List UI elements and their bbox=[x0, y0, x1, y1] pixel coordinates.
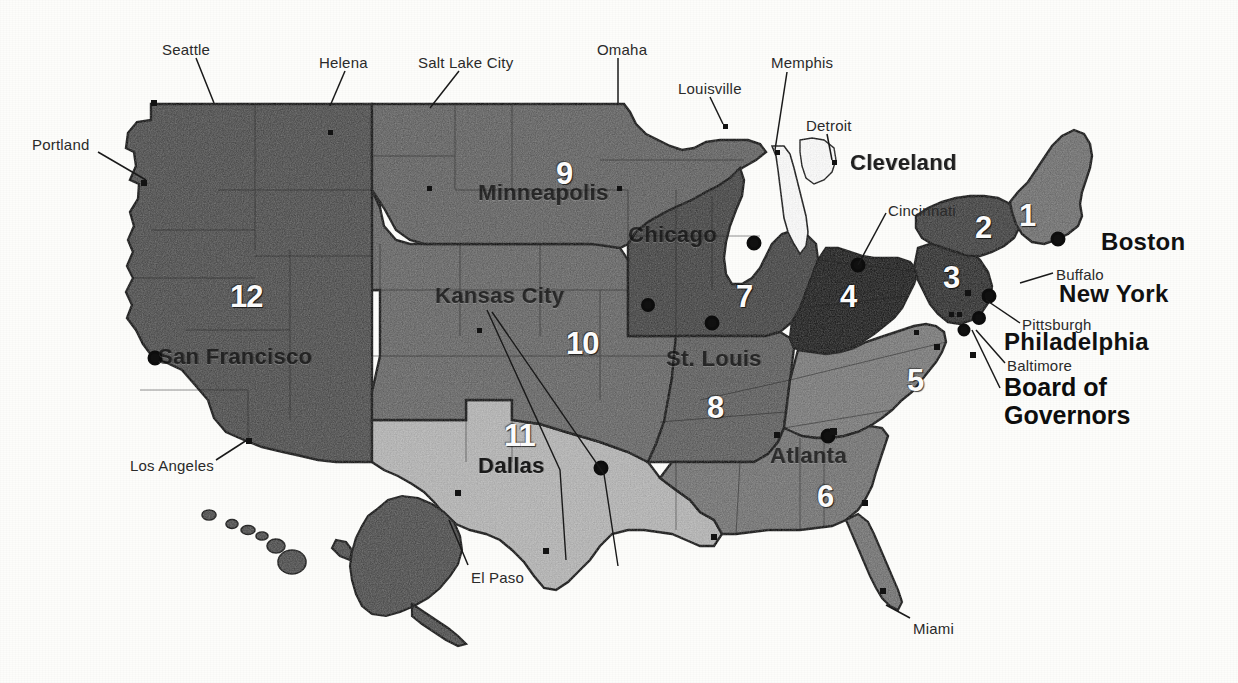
district-number-5: 5 bbox=[907, 365, 925, 396]
district-number-11: 11 bbox=[504, 420, 535, 451]
callout-leader-line bbox=[330, 71, 345, 106]
callout-city-label: Miami bbox=[913, 621, 954, 636]
district-regions bbox=[126, 104, 1092, 646]
callout-leader-line bbox=[430, 71, 459, 108]
reserve-bank-city-label: Boston bbox=[1101, 230, 1185, 254]
district-number-2: 2 bbox=[975, 212, 993, 243]
callout-city-label: Portland bbox=[32, 137, 89, 152]
district-number-1: 1 bbox=[1019, 200, 1037, 231]
district-number-12: 12 bbox=[230, 281, 262, 312]
district-number-4: 4 bbox=[840, 281, 858, 312]
callout-city-label: Helena bbox=[319, 55, 368, 70]
callout-city-label: Los Angeles bbox=[130, 458, 214, 473]
reserve-bank-city-label: Atlanta bbox=[770, 445, 847, 467]
board-of-governors-line2: Governors bbox=[1004, 401, 1130, 429]
callout-leader-line bbox=[986, 300, 1020, 323]
callout-leader-line bbox=[196, 58, 214, 103]
district-number-10: 10 bbox=[566, 328, 598, 359]
reserve-bank-city-label: Minneapolis bbox=[478, 182, 608, 204]
florida-peninsula bbox=[846, 514, 902, 610]
district-number-7: 7 bbox=[736, 281, 754, 312]
federal-reserve-district-map: SeattleHelenaSalt Lake CityOmahaLouisvil… bbox=[0, 0, 1238, 683]
district-number-6: 6 bbox=[817, 481, 835, 512]
callout-leader-line bbox=[216, 440, 247, 460]
board-of-governors-line1: Board of bbox=[1004, 373, 1130, 401]
callout-city-label: Detroit bbox=[806, 118, 852, 133]
reserve-bank-city-label: Philadelphia bbox=[1004, 330, 1149, 354]
reserve-bank-city-label: San Francisco bbox=[158, 346, 312, 368]
callout-leader-line bbox=[710, 97, 723, 124]
reserve-bank-city-label: St. Louis bbox=[666, 348, 762, 370]
callout-city-label: Louisville bbox=[678, 81, 742, 96]
board-of-governors-label: Board of Governors bbox=[1004, 373, 1130, 429]
callout-leader-line bbox=[1020, 273, 1053, 283]
callout-city-label: Memphis bbox=[771, 55, 833, 70]
callout-city-label: Salt Lake City bbox=[418, 55, 513, 70]
board-of-governors-leader-line bbox=[972, 330, 1000, 388]
callout-city-label: Seattle bbox=[162, 42, 210, 57]
reserve-bank-city-label: Dallas bbox=[478, 455, 545, 477]
callout-city-label: El Paso bbox=[471, 570, 524, 585]
callout-leader-line bbox=[775, 72, 787, 150]
reserve-bank-city-label: Kansas City bbox=[435, 285, 564, 307]
callout-city-label: Baltimore bbox=[1007, 358, 1072, 373]
alaska-inset bbox=[332, 496, 466, 646]
hawaii-inset bbox=[202, 510, 306, 574]
lake-superior bbox=[800, 138, 836, 184]
district-number-3: 3 bbox=[943, 262, 961, 293]
reserve-bank-city-label: Cleveland bbox=[850, 152, 957, 174]
district-number-8: 8 bbox=[707, 392, 725, 423]
callout-city-label: Omaha bbox=[597, 42, 647, 57]
reserve-bank-city-label: Chicago bbox=[628, 224, 717, 246]
reserve-bank-city-label: New York bbox=[1059, 282, 1169, 306]
callout-city-label: Cincinnati bbox=[888, 203, 956, 218]
district-number-9: 9 bbox=[556, 158, 574, 189]
